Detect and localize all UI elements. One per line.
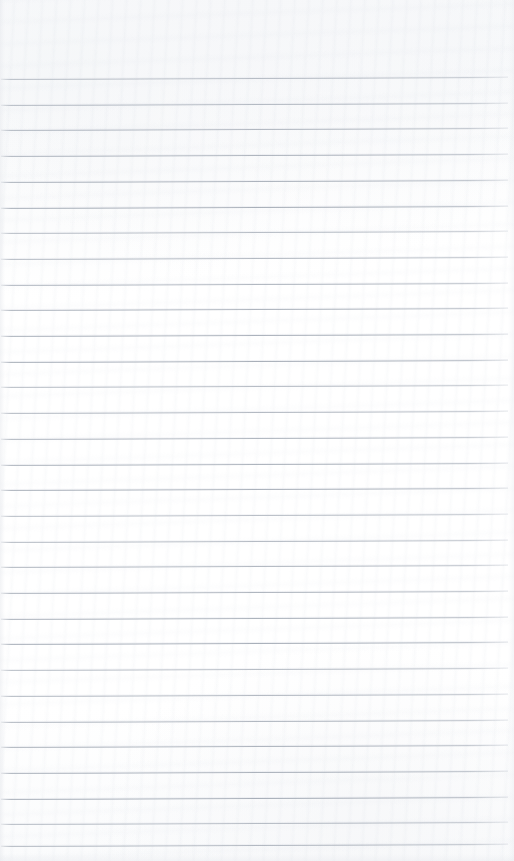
scanned-paper-page (0, 0, 514, 861)
paper-background (0, 0, 514, 861)
